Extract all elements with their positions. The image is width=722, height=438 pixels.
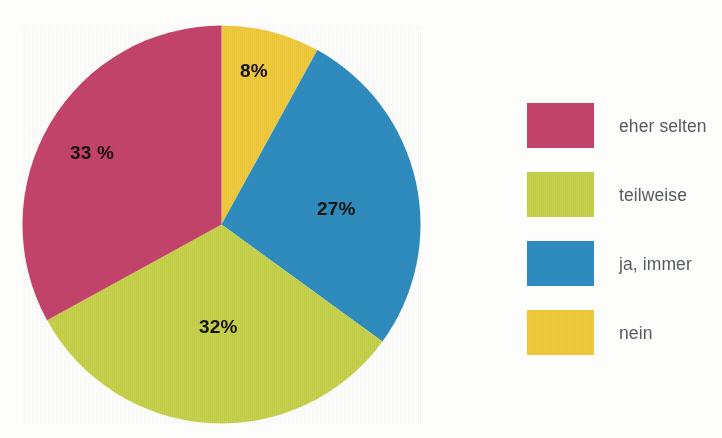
pie-slice-value-label: 8% (240, 60, 268, 82)
legend-item-label: eher selten (619, 115, 707, 136)
pie-slice-value-label: 27% (317, 198, 356, 220)
swatch-grain-texture (527, 241, 594, 286)
pie-chart: 8%27%32%33 % (22, 25, 421, 424)
legend-item[interactable]: eher selten (527, 103, 712, 148)
chart-page: 8%27%32%33 % eher selten teilweise ja, i… (0, 0, 722, 438)
pie-slice-value-label: 32% (199, 316, 238, 338)
legend-swatch-icon (527, 172, 594, 217)
legend-swatch-icon (527, 310, 594, 355)
swatch-grain-texture (527, 172, 594, 217)
chart-legend: eher selten teilweise ja, immer nein (527, 103, 712, 355)
legend-item[interactable]: teilweise (527, 172, 712, 217)
legend-item[interactable]: nein (527, 310, 712, 355)
swatch-grain-texture (527, 103, 594, 148)
legend-item-label: teilweise (619, 184, 687, 205)
legend-item-label: nein (619, 322, 653, 343)
pie-chart-svg (22, 25, 421, 424)
legend-swatch-icon (527, 103, 594, 148)
legend-item-label: ja, immer (619, 253, 692, 274)
legend-item[interactable]: ja, immer (527, 241, 712, 286)
pie-slice-value-label: 33 % (70, 142, 114, 164)
legend-swatch-icon (527, 241, 594, 286)
cropped-headline (24, 0, 644, 4)
swatch-grain-texture (527, 310, 594, 355)
